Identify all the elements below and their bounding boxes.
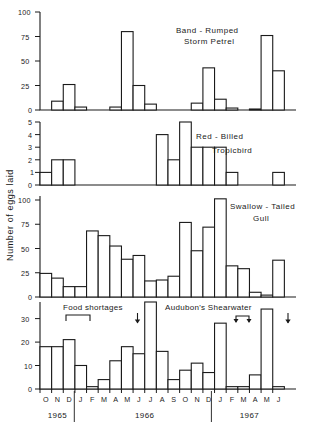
month-label-5: M: [101, 395, 107, 404]
panel2-title-line2: Tropicbird: [212, 146, 252, 155]
bar: [121, 32, 133, 110]
month-label-20: J: [277, 395, 281, 404]
panel1-ytick-50: 50: [21, 57, 30, 66]
panel2-ytick-0: 0: [28, 181, 32, 190]
panel4-ytick-20: 20: [21, 338, 30, 347]
bar: [98, 236, 110, 297]
panel3-y-ticks: [35, 200, 40, 297]
bar: [63, 85, 75, 110]
bar: [145, 281, 157, 297]
panel3-ytick-50: 50: [21, 245, 30, 254]
x-axis: ONDJFMAMJJASONDJFMAMJ 196519661967: [40, 389, 281, 422]
panel3-bars: [40, 199, 284, 297]
month-label-1: N: [55, 395, 60, 404]
panel4-y-ticks: [35, 319, 40, 389]
bar: [273, 172, 285, 185]
month-label-7: M: [124, 395, 130, 404]
bar: [133, 86, 145, 111]
bar: [156, 351, 168, 389]
bar: [75, 107, 87, 110]
panel3-ytick-0: 0: [28, 293, 32, 302]
bar: [52, 160, 64, 185]
panel-red-billed-tropicbird: 5 4 3 2 1 0 Red - Billed Tropicbird: [28, 118, 296, 190]
bar: [168, 276, 180, 297]
bar: [273, 387, 285, 389]
year-labels: 196519661967: [48, 411, 260, 420]
bar: [63, 160, 75, 185]
bar: [261, 295, 273, 297]
bar: [191, 103, 203, 110]
panel3-ytick-75: 75: [21, 220, 30, 229]
panel1-ytick-0: 0: [28, 106, 32, 115]
panel1-bars: [52, 32, 285, 110]
month-label-6: A: [113, 395, 118, 404]
panel3-ytick-25: 25: [21, 269, 30, 278]
panel4-ytick-10: 10: [24, 362, 33, 371]
year-label-1965: 1965: [48, 411, 68, 420]
bar: [63, 287, 75, 297]
panel1-ytick-25: 25: [21, 82, 30, 91]
panel1-axis-lines: [40, 12, 296, 110]
bar: [226, 172, 238, 185]
panel-band-rumped-storm-petrel: 100 75 50 25 0 Band - Rumped Storm Petre…: [18, 8, 296, 115]
bar: [226, 266, 238, 297]
month-labels: ONDJFMAMJJASONDJFMAMJ: [43, 395, 281, 404]
bar: [226, 108, 238, 110]
bar: [75, 287, 87, 297]
bar: [110, 246, 122, 297]
panel2-title-line1: Red - Billed: [196, 132, 243, 141]
bar: [249, 375, 261, 389]
month-label-4: F: [90, 395, 95, 404]
food-shortage-arrow-1: [135, 313, 140, 323]
bar: [87, 231, 99, 297]
month-label-19: M: [264, 395, 270, 404]
month-label-14: D: [206, 395, 211, 404]
bar: [156, 135, 168, 185]
bar: [145, 104, 157, 110]
bar: [180, 122, 192, 185]
bar: [191, 251, 203, 297]
egg-laying-figure: Number of eggs laid 100 75 50 25 0 Band …: [0, 0, 310, 429]
panel3-title-line1: Swallow - Tailed: [230, 202, 295, 211]
month-label-0: O: [43, 395, 49, 404]
panel-audubons-shearwater: 30 20 10 0 Food shortages Audubon's Shea…: [21, 302, 296, 394]
year-label-1966: 1966: [135, 411, 155, 420]
bar: [273, 260, 285, 297]
bar: [63, 340, 75, 389]
bar: [133, 255, 145, 297]
month-label-13: N: [194, 395, 199, 404]
bar: [191, 147, 203, 185]
bar: [273, 71, 285, 110]
bar: [75, 365, 87, 389]
panel4-ytick-30: 30: [21, 315, 30, 324]
month-tick-marks: [40, 389, 273, 393]
bar: [249, 292, 261, 297]
bar: [261, 309, 273, 389]
year-label-1967: 1967: [240, 411, 260, 420]
y-axis-label: Number of eggs laid: [5, 169, 15, 261]
bar: [121, 259, 133, 297]
food-shortage-arrow-2: [285, 313, 290, 323]
bar: [191, 363, 203, 389]
bar: [52, 101, 64, 110]
month-label-17: M: [241, 395, 247, 404]
bar: [249, 109, 261, 110]
figure-svg: Number of eggs laid 100 75 50 25 0 Band …: [0, 0, 310, 429]
month-label-8: J: [137, 395, 141, 404]
panel1-ytick-75: 75: [21, 33, 30, 42]
bar: [40, 347, 52, 389]
month-label-12: O: [183, 395, 189, 404]
bar: [52, 347, 64, 389]
month-label-11: S: [171, 395, 176, 404]
bar: [98, 380, 110, 389]
bar: [52, 278, 64, 297]
panel1-axes: 100 75 50 25 0: [18, 8, 296, 115]
bar: [110, 107, 122, 110]
bar: [238, 269, 250, 297]
panel-swallow-tailed-gull: 100 75 50 25 0 Swallow - Tailed Gull: [18, 196, 296, 302]
bar: [215, 323, 227, 389]
month-label-10: A: [160, 395, 165, 404]
panel1-ytick-100: 100: [18, 8, 31, 17]
month-label-2: D: [66, 395, 71, 404]
panel2-ytick-5: 5: [28, 118, 32, 127]
